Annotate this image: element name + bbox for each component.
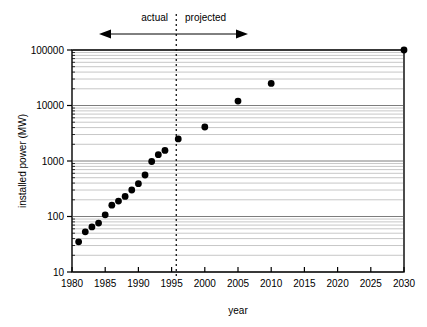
data-point-marker xyxy=(135,180,142,187)
y-axis-title: installed power (MW) xyxy=(17,114,28,208)
x-axis-tick-label: 1980 xyxy=(61,278,84,289)
data-point-marker xyxy=(162,147,169,154)
data-point-marker xyxy=(235,98,242,105)
x-axis-tick-label: 2020 xyxy=(326,278,349,289)
data-point-marker xyxy=(108,202,115,209)
y-axis-tick-label: 100000 xyxy=(31,45,65,56)
data-point-marker xyxy=(128,187,135,194)
y-axis-tick-label: 10 xyxy=(53,267,65,278)
data-point-marker xyxy=(89,223,96,230)
data-point-marker xyxy=(268,80,275,87)
x-axis-tick-label: 2005 xyxy=(227,278,250,289)
y-axis-tick-label: 1000 xyxy=(42,156,65,167)
chart-figure: 10100100010000100000 1980198519901995200… xyxy=(0,0,427,327)
x-axis-tick-label: 2025 xyxy=(360,278,383,289)
projected-annotation-label: projected xyxy=(185,12,226,23)
data-point-marker xyxy=(95,220,102,227)
x-axis-tick-labels-group: 1980198519901995200020052010201520202025… xyxy=(61,278,416,289)
data-point-marker xyxy=(82,228,89,235)
installed-power-log-scatter-chart: 10100100010000100000 1980198519901995200… xyxy=(0,0,427,327)
data-point-marker xyxy=(115,198,122,205)
data-point-marker xyxy=(175,136,182,143)
x-axis-title: year xyxy=(228,305,248,316)
y-axis-tick-label: 10000 xyxy=(36,100,64,111)
data-point-marker xyxy=(148,158,155,165)
data-point-marker xyxy=(401,47,408,54)
x-axis-tick-label: 2015 xyxy=(293,278,316,289)
y-axis-tick-label: 100 xyxy=(47,211,64,222)
data-point-marker xyxy=(142,172,149,179)
x-axis-tick-label: 2010 xyxy=(260,278,283,289)
actual-annotation-label: actual xyxy=(141,12,168,23)
data-point-marker xyxy=(122,193,129,200)
x-axis-tick-label: 1995 xyxy=(160,278,183,289)
x-axis-tick-label: 1990 xyxy=(127,278,150,289)
x-axis-tick-label: 2000 xyxy=(194,278,217,289)
data-point-marker xyxy=(75,238,82,245)
data-point-marker xyxy=(201,124,208,131)
x-axis-tick-label: 1985 xyxy=(94,278,117,289)
data-point-marker xyxy=(102,211,109,218)
x-axis-tick-label: 2030 xyxy=(393,278,416,289)
data-point-marker xyxy=(155,151,162,158)
